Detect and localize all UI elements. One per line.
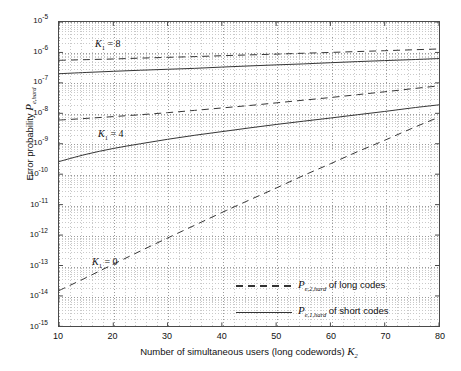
y-tick-label: 10-12: [2, 230, 48, 239]
legend-sub-short: e,1,hard: [305, 311, 326, 318]
legend-row-long-codes: Pe,2,hard of long codes: [236, 276, 432, 296]
curve-K1-4-dashed: [59, 86, 439, 120]
x-tick-label: 80: [420, 332, 460, 341]
y-tick-label: 10-7: [2, 77, 48, 86]
x-tick-label: 10: [38, 332, 78, 341]
legend-sym-long: P: [298, 278, 305, 290]
x-axis-title: Number of simultaneous users (long codew…: [58, 345, 440, 357]
annotation-k1-8: K1 = 8: [95, 38, 121, 49]
curve-K1-8-dashed: [59, 49, 439, 60]
x-axis-subscript: 2: [355, 352, 358, 359]
y-tick-label: 10-8: [2, 108, 48, 117]
legend-suffix-long: of long codes: [326, 279, 385, 290]
legend-swatch-solid: [236, 312, 292, 313]
annotation-k1-0-symbol: K: [92, 256, 99, 267]
legend-sym-short: P: [298, 304, 305, 316]
annotation-k1-8-value: = 8: [105, 38, 121, 49]
legend: Pe,2,hard of long codes Pe,1,hard of sho…: [236, 276, 432, 322]
legend-label-short-codes: Pe,1,hard of short codes: [298, 304, 388, 316]
annotation-k1-0-value: = 0: [102, 256, 118, 267]
annotation-k1-4-symbol: K: [98, 128, 105, 139]
annotation-k1-8-symbol: K: [95, 38, 102, 49]
annotation-k1-4-value: = 4: [108, 128, 124, 139]
x-axis-symbol: K: [347, 345, 354, 357]
y-tick-label: 10-10: [2, 169, 48, 178]
y-tick-label: 10-11: [2, 200, 48, 209]
legend-row-short-codes: Pe,1,hard of short codes: [236, 302, 432, 322]
curve-K1-8-solid: [59, 59, 439, 74]
x-tick-label: 30: [147, 332, 187, 341]
y-tick-label: 10-9: [2, 138, 48, 147]
legend-swatch-dashed: [236, 285, 292, 287]
x-tick-label: 70: [365, 332, 405, 341]
x-tick-label: 60: [311, 332, 351, 341]
y-tick-label: 10-6: [2, 47, 48, 56]
legend-sub-long: e,2,hard: [305, 285, 326, 292]
y-tick-label: 10-13: [2, 261, 48, 270]
y-axis-title: Error probability Pe,hard: [23, 49, 35, 219]
annotation-k1-4: K1 = 4: [98, 128, 124, 139]
y-axis-subscript: e,hard: [30, 88, 37, 105]
legend-label-long-codes: Pe,2,hard of long codes: [298, 278, 385, 290]
legend-suffix-short: of short codes: [326, 305, 388, 316]
y-tick-label: 10-15: [2, 322, 48, 331]
y-tick-label: 10-14: [2, 291, 48, 300]
figure-log-error-probability: Error probability Pe,hard Number of simu…: [0, 0, 461, 371]
x-tick-label: 20: [93, 332, 133, 341]
x-tick-label: 40: [202, 332, 242, 341]
y-tick-label: 10-5: [2, 16, 48, 25]
x-axis-title-text: Number of simultaneous users (long codew…: [140, 346, 347, 357]
x-tick-label: 50: [256, 332, 296, 341]
annotation-k1-0: K1 = 0: [92, 256, 118, 267]
